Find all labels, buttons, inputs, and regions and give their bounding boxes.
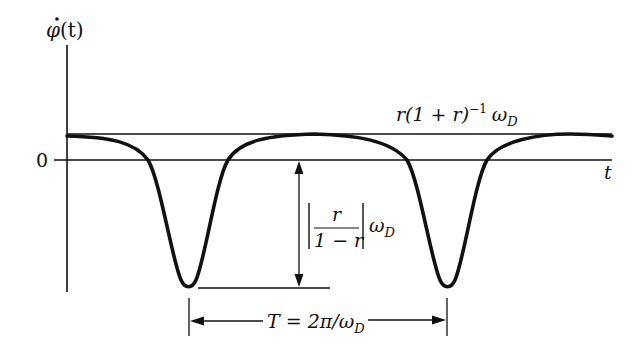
zero-label: 0 — [36, 149, 48, 171]
derivative-dot — [55, 17, 59, 21]
amplitude-label: r 1 − r ωD — [309, 203, 396, 251]
amplitude-arrow-head-up — [295, 161, 304, 174]
amplitude-omega: ωD — [369, 214, 396, 240]
plateau-label: r(1 + r)−1ωD — [396, 102, 518, 129]
amplitude-numerator: r — [332, 203, 343, 225]
period-label: T = 2π/ωD — [267, 310, 365, 336]
amplitude-denominator: 1 − r — [314, 229, 365, 251]
y-axis-label: φ(t) — [46, 18, 84, 42]
period-arrow-head-right — [432, 316, 446, 325]
figure-canvas: φ(t) 0 t r(1 + r)−1ωD r 1 − r ωD T = 2π/… — [0, 0, 635, 354]
x-axis-label: t — [604, 161, 612, 183]
period-arrow-head-left — [190, 317, 204, 326]
amplitude-arrow-head-down — [295, 274, 304, 287]
